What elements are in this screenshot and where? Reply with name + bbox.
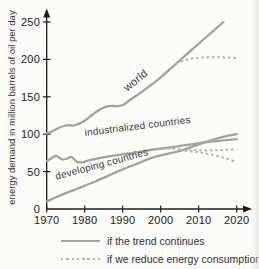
series-industrialized-countries-if-we-reduce-energy-consumption <box>157 149 237 151</box>
y-tick-label: 100 <box>13 128 40 140</box>
x-tick-label: 1970 <box>29 214 65 226</box>
series-developing-countries-if-we-reduce-energy-consumption <box>180 150 237 162</box>
y-tick-label: 50 <box>13 166 40 178</box>
solid-line-swatch <box>61 240 100 242</box>
legend-entry-reduce: if we reduce energy consumption <box>61 253 259 265</box>
y-tick-label: 200 <box>13 53 40 65</box>
y-tick-label: 150 <box>13 91 40 103</box>
series-world-if-we-reduce-energy-consumption <box>176 57 237 64</box>
x-tick-label: 1990 <box>105 214 141 226</box>
legend-label-trend: if the trend continues <box>107 235 204 247</box>
legend-label-reduce: if we reduce energy consumption <box>107 253 259 265</box>
x-tick-label: 2000 <box>143 214 179 226</box>
y-axis-label: energy demand in million barrels of oil … <box>5 0 18 219</box>
legend-entry-trend: if the trend continues <box>61 235 204 247</box>
dashed-line-swatch <box>61 258 100 260</box>
energy-demand-chart: energy demand in million barrels of oil … <box>0 0 259 269</box>
y-axis-arrow-icon <box>43 9 50 18</box>
x-axis-arrow-icon <box>243 206 252 213</box>
y-tick-label: 250 <box>13 16 40 28</box>
x-tick-label: 2020 <box>219 214 255 226</box>
x-tick-label: 1980 <box>67 214 103 226</box>
x-tick-label: 2010 <box>181 214 217 226</box>
